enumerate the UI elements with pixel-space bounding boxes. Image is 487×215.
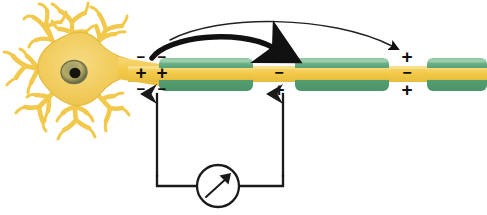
nucleolus xyxy=(69,68,80,78)
charge-symbol: − xyxy=(137,80,146,97)
myelin-segment xyxy=(427,58,487,91)
charge-symbol: + xyxy=(401,79,412,100)
myelin-segment xyxy=(295,58,389,91)
myelin-segment xyxy=(159,58,253,91)
node-3-charges: + − + xyxy=(401,46,412,100)
figure-canvas: − + − − + − + − + + − + xyxy=(0,0,487,215)
voltmeter[interactable] xyxy=(197,165,239,207)
nucleus xyxy=(61,61,87,84)
node-2-charges: + − + xyxy=(273,46,284,100)
charge-symbol: − xyxy=(158,80,167,97)
neuron-saltatory-conduction-diagram: − + − − + − + − + + − + xyxy=(0,0,487,215)
myelin-sheath-group xyxy=(159,58,487,91)
